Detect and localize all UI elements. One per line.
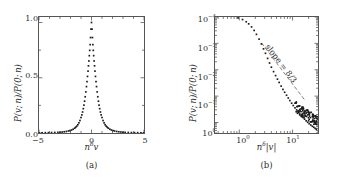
panel-a-plot-svg <box>39 17 144 133</box>
panel-b-plot-svg <box>215 17 318 133</box>
panel-b-xlabel-tail: |v| <box>266 142 277 152</box>
panel-b-ytick-3: 10−1 <box>182 101 216 110</box>
panel-a-x-axis-label: nδv <box>38 142 145 152</box>
panel-a-ytick-1: 0.5 <box>8 71 38 80</box>
panel-b-caption: (b) <box>214 160 319 170</box>
panel-a-ytick-2: 1.0 <box>8 14 38 23</box>
panel-a-xlabel-tail: v <box>94 142 99 152</box>
panel-b-x-axis-label: nδ|v| <box>214 142 319 152</box>
panel-b-ytick-2: 10−2 <box>182 73 216 82</box>
panel-b-ytick-0: 10−4 <box>182 15 216 24</box>
panel-a-plot-area <box>38 16 145 134</box>
panel-b-ytick-4: 100 <box>182 129 216 138</box>
panel-b-plot-area: slope = 8/3 <box>214 16 319 134</box>
panel-b-ytick-1: 10−3 <box>182 44 216 53</box>
panel-a-caption: (a) <box>38 160 145 170</box>
figure-container: P(v; n)/P(0; n) 0.0 0.5 1.0 −5 0 5 nδv (… <box>0 0 349 181</box>
panel-a: P(v; n)/P(0; n) 0.0 0.5 1.0 −5 0 5 nδv (… <box>0 0 175 181</box>
panel-b: P(v; n)/P(0; n) 10−4 10−3 10−2 10−1 100 … <box>174 0 349 181</box>
